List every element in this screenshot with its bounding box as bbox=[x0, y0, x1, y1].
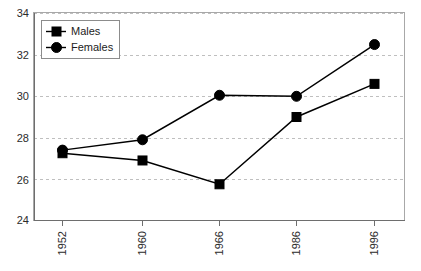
datapoint-males-1966 bbox=[215, 180, 224, 189]
legend-marker-males-square bbox=[52, 27, 61, 36]
datapoint-females-1966 bbox=[215, 90, 225, 100]
y-tick-34: 34 bbox=[17, 7, 29, 19]
chart-legend: Males Females bbox=[42, 21, 120, 59]
x-tick-1960: 1960 bbox=[136, 231, 148, 255]
y-axis-tick-labels: 24 26 28 30 32 34 bbox=[17, 7, 29, 226]
y-tick-32: 32 bbox=[17, 49, 29, 61]
series-layer bbox=[58, 40, 380, 189]
datapoint-males-1960 bbox=[138, 156, 147, 165]
datapoint-males-1986 bbox=[292, 113, 301, 122]
legend-label-males: Males bbox=[71, 25, 101, 37]
datapoint-females-1960 bbox=[138, 135, 148, 145]
chart-canvas: 24 26 28 30 32 34 1952 1960 1966 1986 19… bbox=[0, 0, 421, 271]
x-tick-1966: 1966 bbox=[213, 231, 225, 255]
y-tick-30: 30 bbox=[17, 90, 29, 102]
line-chart: 24 26 28 30 32 34 1952 1960 1966 1986 19… bbox=[0, 0, 421, 271]
x-axis-tickmarks bbox=[63, 221, 375, 227]
x-axis-tick-labels: 1952 1960 1966 1986 1996 bbox=[56, 231, 380, 255]
x-tick-1986: 1986 bbox=[290, 231, 302, 255]
datapoint-females-1986 bbox=[292, 91, 302, 101]
y-tick-24: 24 bbox=[17, 214, 29, 226]
legend-marker-females-circle bbox=[52, 43, 62, 53]
datapoint-females-1996 bbox=[370, 40, 380, 50]
x-tick-1996: 1996 bbox=[368, 231, 380, 255]
y-tick-28: 28 bbox=[17, 132, 29, 144]
x-tick-1952: 1952 bbox=[56, 231, 68, 255]
legend-label-females: Females bbox=[71, 41, 114, 53]
y-tick-26: 26 bbox=[17, 174, 29, 186]
datapoint-females-1952 bbox=[58, 145, 68, 155]
datapoint-males-1996 bbox=[370, 79, 379, 88]
